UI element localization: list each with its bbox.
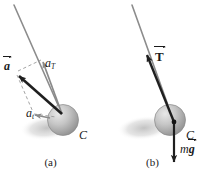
- label-weight-vector: mg: [180, 143, 195, 155]
- label-tangential-acceleration: aT: [45, 57, 55, 71]
- panel-b: T C mg (b): [102, 0, 203, 179]
- physics-figure: a aT at C (a) T: [0, 0, 203, 179]
- label-center-c-a: C: [79, 129, 87, 141]
- panel-a: a aT at C (a): [0, 0, 101, 179]
- panel-a-graphics: [0, 0, 101, 179]
- label-radial-acceleration: at: [26, 107, 34, 121]
- center-point-b: [172, 120, 177, 125]
- dashed-line-top: [18, 60, 41, 71]
- label-acceleration-vector: a: [4, 60, 10, 72]
- caption-b: (b): [102, 156, 203, 168]
- label-center-c-b: C: [186, 129, 194, 141]
- label-tension-vector: T: [155, 50, 164, 63]
- caption-a: (a): [0, 156, 101, 168]
